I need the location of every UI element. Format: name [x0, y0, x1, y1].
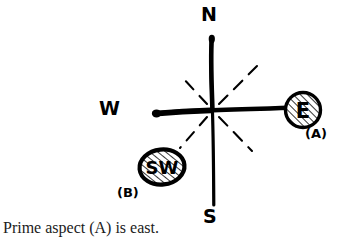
node-east-reference: (A) [305, 127, 327, 140]
dashed-ray-southwest [180, 117, 207, 148]
node-southwest-letter: SW [146, 157, 179, 178]
node-east-marker: E [286, 93, 321, 128]
compass-label-west: W [99, 99, 120, 118]
compass-figure: E SW N S W (A) (B) Prime aspect (A) is e… [0, 0, 341, 245]
dashed-ray-northeast [219, 66, 257, 104]
compass-diagram-svg: E SW [0, 0, 341, 245]
horizontal-axis [152, 108, 288, 118]
compass-label-north: N [201, 5, 217, 24]
node-east-letter: E [296, 99, 310, 123]
dashed-ray-northwest [181, 76, 207, 104]
node-southwest-marker: SW [138, 147, 186, 187]
dashed-ray-southeast [219, 117, 252, 151]
node-southwest-reference: (B) [117, 186, 139, 199]
compass-label-south: S [203, 207, 217, 226]
figure-caption: Prime aspect (A) is east. [3, 219, 159, 237]
vertical-axis [209, 35, 215, 205]
